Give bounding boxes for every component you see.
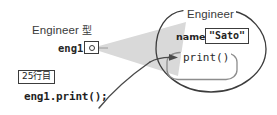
variable-type-text: Engineer: [32, 24, 82, 36]
diagram-canvas: Engineer 型 eng1 25行目 eng1.print(); Engin…: [0, 0, 277, 115]
variable-type-label: Engineer 型: [32, 25, 92, 37]
pointer-cell: [84, 41, 99, 54]
object-class-label: Engineer: [185, 9, 236, 21]
code-statement: eng1.print();: [24, 91, 108, 102]
method-name-label: print(): [181, 52, 231, 63]
line-number-badge: 25行目: [18, 70, 55, 84]
field-name-label: name: [176, 32, 206, 42]
field-value-box: "Sato": [205, 28, 249, 44]
variable-name-label: eng1: [58, 43, 83, 54]
pointer-dot-icon: [89, 45, 95, 51]
variable-type-suffix: 型: [82, 25, 92, 36]
